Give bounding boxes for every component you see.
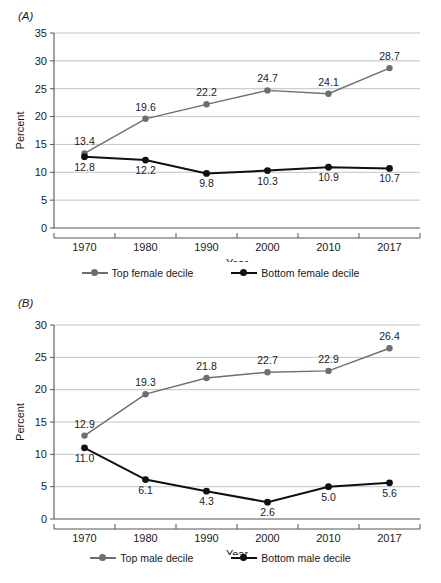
series-line [85,157,390,174]
y-axis-tick-label: 35 [35,27,47,39]
data-point-label: 4.3 [199,495,214,507]
x-axis-tick-label: 2017 [377,241,401,253]
x-axis-tick-label: 2000 [255,532,279,544]
data-point-label: 12.2 [135,164,156,176]
data-point-marker [203,101,209,107]
data-point-label: 2.6 [260,506,275,518]
x-axis-tick-label: 1980 [133,532,157,544]
data-point-marker [325,164,332,171]
y-axis-tick-label: 25 [35,83,47,95]
data-point-marker [142,476,149,483]
panel-a: (A) 051015202530351970198019902000201020… [0,0,441,291]
legend-marker-icon [82,268,108,278]
data-point-marker [264,499,271,506]
data-point-marker [264,167,271,174]
x-axis-tick-label: 1990 [194,241,218,253]
data-point-marker [81,153,88,160]
panel-b: (B) 051015202530197019801990200020102017… [0,291,441,582]
data-point-label: 10.9 [318,171,339,183]
legend-label-bottom-female: Bottom female decile [261,268,359,279]
data-point-label: 19.6 [135,101,156,113]
data-point-marker [264,87,270,93]
y-axis-tick-label: 15 [35,138,47,150]
data-point-label: 28.7 [379,50,400,62]
legend-entry-bottom-male: Bottom male decile [231,553,350,564]
x-axis-tick-label: 1990 [194,532,218,544]
data-point-marker [203,488,210,495]
y-axis-tick-label: 30 [35,55,47,67]
data-point-label: 6.1 [138,484,153,496]
data-point-marker [386,165,393,172]
x-axis-tick-label: 2000 [255,241,279,253]
y-axis-tick-label: 10 [35,448,47,460]
y-axis-tick-label: 25 [35,351,47,363]
legend-entry-top-male: Top male decile [90,553,193,564]
data-point-label: 5.6 [382,487,397,499]
y-axis-tick-label: 5 [41,194,47,206]
data-point-label: 26.4 [379,330,400,342]
legend-entry-top-female: Top female decile [82,268,194,279]
x-axis-tick-label: 1970 [72,241,96,253]
data-point-label: 22.2 [196,86,217,98]
y-axis-tick-label: 30 [35,319,47,331]
data-point-marker [264,369,270,375]
y-axis-tick-label: 0 [41,513,47,525]
y-axis-title: Percent [14,112,26,150]
data-point-label: 11.0 [75,452,95,464]
series-line [85,448,390,502]
panel-a-legend: Top female decile Bottom female decile [0,268,441,279]
data-point-marker [81,432,87,438]
data-point-label: 22.9 [318,353,339,365]
y-axis-tick-label: 15 [35,416,47,428]
y-axis-tick-label: 10 [35,166,47,178]
data-point-marker [203,170,210,177]
data-point-label: 21.8 [196,360,217,372]
y-axis-title: Percent [14,403,26,441]
data-point-label: 10.3 [257,175,278,187]
y-axis-tick-label: 20 [35,383,47,395]
x-axis-tick-label: 1980 [133,241,157,253]
legend-entry-bottom-female: Bottom female decile [231,268,359,279]
y-axis-tick-label: 0 [41,222,47,234]
legend-label-top-male: Top male decile [120,553,193,564]
data-point-marker [142,157,149,164]
data-point-marker [386,65,392,71]
x-axis-tick-label: 2010 [316,532,340,544]
legend-marker-icon [231,268,257,278]
legend-label-top-female: Top female decile [112,268,194,279]
data-point-marker [325,368,331,374]
data-point-marker [386,479,393,486]
data-point-label: 19.3 [135,376,156,388]
data-point-label: 13.4 [74,135,95,147]
data-point-marker [325,91,331,97]
x-axis-tick-label: 2017 [377,532,401,544]
data-point-label: 24.1 [318,76,339,88]
data-point-marker [203,375,209,381]
data-point-label: 22.7 [257,354,278,366]
series-line [85,348,390,435]
data-point-marker [81,444,88,451]
x-axis-tick-label: 2010 [316,241,340,253]
data-point-label: 12.9 [74,418,95,430]
data-point-label: 5.0 [321,491,336,503]
legend-marker-icon [90,553,116,563]
data-point-marker [142,116,148,122]
data-point-label: 9.8 [199,177,214,189]
panel-b-plot: 051015202530197019801990200020102017Year… [0,297,441,555]
x-axis-tick-label: 1970 [72,532,96,544]
data-point-marker [325,483,332,490]
y-axis-tick-label: 5 [41,480,47,492]
legend-marker-icon [231,553,257,563]
data-point-marker [386,345,392,351]
y-axis-tick-label: 20 [35,110,47,122]
panel-b-legend: Top male decile Bottom male decile [0,553,441,564]
x-axis-title: Year [226,257,249,262]
legend-label-bottom-male: Bottom male decile [261,553,350,564]
data-point-label: 24.7 [257,72,278,84]
series-line [85,68,390,153]
panel-a-plot: 05101520253035197019801990200020102017Ye… [0,0,441,262]
data-point-label: 12.8 [74,161,95,173]
data-point-marker [142,391,148,397]
data-point-label: 10.7 [379,172,400,184]
